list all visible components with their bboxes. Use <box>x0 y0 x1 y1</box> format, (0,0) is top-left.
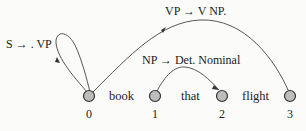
node-index-0: 0 <box>86 107 92 121</box>
edge-s-vp-loop <box>56 34 90 93</box>
word-book: book <box>109 89 135 103</box>
node-index-2: 2 <box>219 107 225 121</box>
arrowhead-icon <box>55 57 60 63</box>
node-1 <box>150 91 161 102</box>
word-flight: flight <box>242 89 270 103</box>
edge-label-s-vp: S → . VP <box>6 37 52 51</box>
word-that: that <box>181 89 200 103</box>
chart-parse-diagram: S → . VP VP → V NP. NP → Det. Nominal bo… <box>0 0 306 131</box>
node-index-1: 1 <box>152 107 158 121</box>
node-3 <box>285 91 296 102</box>
node-index-3: 3 <box>287 107 293 121</box>
edge-label-np-det-nominal: NP → Det. Nominal <box>142 53 241 67</box>
node-0 <box>84 91 95 102</box>
edge-label-vp-v-np: VP → V NP. <box>165 4 226 18</box>
node-2 <box>217 91 228 102</box>
